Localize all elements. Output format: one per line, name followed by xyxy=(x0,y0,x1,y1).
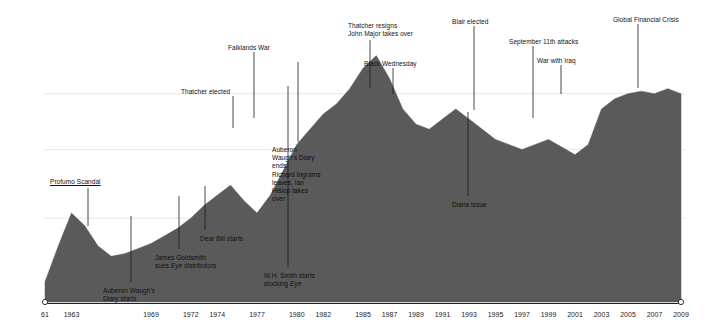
x-tick-2007: 2007 xyxy=(640,311,670,318)
annotation-italic-term: Eye xyxy=(290,280,301,287)
x-tick-1997: 1997 xyxy=(507,311,537,318)
x-tick-1991: 1991 xyxy=(428,311,458,318)
annotation-label-auberon-end: Auberon Waugh's Diary ends. Richard Ingr… xyxy=(272,146,320,203)
annotation-label-gfc: Global Financial Crisis xyxy=(613,16,679,24)
x-tick-1972: 1972 xyxy=(176,311,206,318)
annotation-label-black-wednesday: Black Wednesday xyxy=(364,60,417,68)
x-tick-2009: 2009 xyxy=(666,311,696,318)
x-tick-1985: 1985 xyxy=(348,311,378,318)
annotation-label-wh-smith: W.H. Smith starts stocking Eye xyxy=(264,272,315,288)
area-series-circulation xyxy=(45,56,681,302)
x-tick-2003: 2003 xyxy=(587,311,617,318)
chart-root: Profumo ScandalAuberon Waugh's Diary sta… xyxy=(0,0,710,335)
axis-end-marker xyxy=(678,299,683,304)
annotation-label-diana: Diana issue xyxy=(452,201,487,209)
annotation-italic-term: Eye xyxy=(171,262,182,269)
x-tick-1980: 1980 xyxy=(282,311,312,318)
annotation-label-iraq: War with Iraq xyxy=(537,57,576,65)
x-tick-1989: 1989 xyxy=(401,311,431,318)
x-tick-1974: 1974 xyxy=(202,311,232,318)
x-tick-2005: 2005 xyxy=(613,311,643,318)
x-tick-1999: 1999 xyxy=(534,311,564,318)
x-tick-1977: 1977 xyxy=(242,311,272,318)
x-tick-1995: 1995 xyxy=(481,311,511,318)
annotation-label-dear-bill: Dear Bill starts xyxy=(200,235,243,243)
annotation-label-falklands: Falklands War xyxy=(228,44,270,52)
x-tick-1993: 1993 xyxy=(454,311,484,318)
annotation-label-blair: Blair elected xyxy=(452,18,488,26)
x-tick-1969: 1969 xyxy=(136,311,166,318)
area-chart-plot xyxy=(0,0,710,335)
annotation-label-sept11: September 11th attacks xyxy=(509,38,578,46)
axis-start-marker xyxy=(42,299,47,304)
annotation-label-thatcher-resigns: Thatcher resigns John Major takes over xyxy=(348,22,413,38)
annotation-label-profumo: Profumo Scandal xyxy=(50,178,101,186)
x-tick-1982: 1982 xyxy=(308,311,338,318)
annotation-label-thatcher-elected: Thatcher elected xyxy=(181,88,230,96)
x-tick-1963: 1963 xyxy=(57,311,87,318)
x-tick-2001: 2001 xyxy=(560,311,590,318)
annotation-label-auberon-start: Auberon Waugh's Diary starts xyxy=(103,287,155,303)
annotation-label-goldsmith: James Goldsmith sues Eye distributors xyxy=(155,254,216,270)
x-tick-61: 61 xyxy=(30,311,60,318)
x-tick-1987: 1987 xyxy=(375,311,405,318)
